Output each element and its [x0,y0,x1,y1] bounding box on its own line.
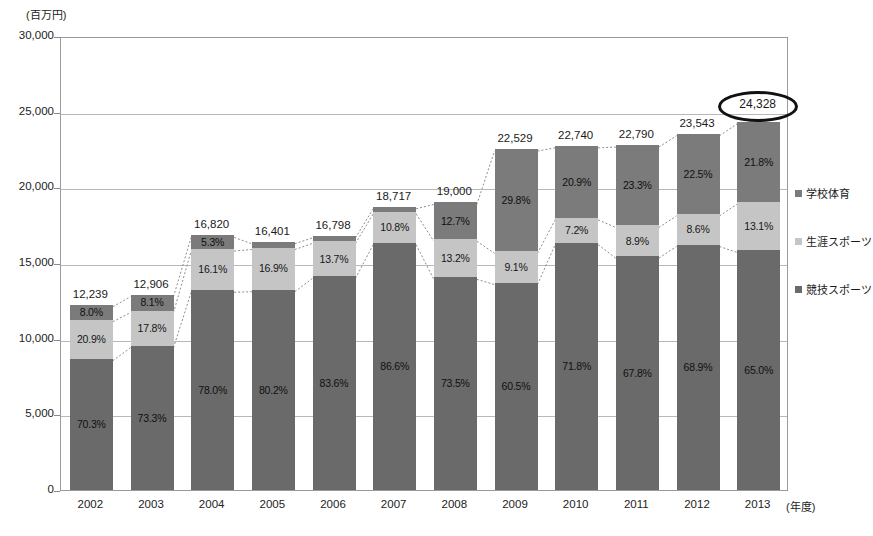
bar-2004[interactable]: 78.0%16.1%5.3% [191,235,234,490]
bar-segment-mid-2005[interactable]: 16.9% [252,248,295,290]
legend-swatch-icon [795,286,802,293]
bar-2006[interactable]: 83.6%13.7%2.2% [313,236,356,490]
connector-line [477,279,495,284]
legend-label: 生涯スポーツ [806,233,872,249]
connector-line [659,216,677,228]
bar-segment-bot-2013[interactable]: 65.0% [737,250,780,490]
bar-2002[interactable]: 70.3%20.9%8.0% [70,305,113,490]
chart-legend: 学校体育生涯スポーツ競技スポーツ [795,186,872,330]
x-axis-tick-label-2004: 2004 [181,498,243,510]
x-axis-tick-label-2013: 2013 [727,498,789,510]
bar-segment-bot-2005[interactable]: 80.2% [252,290,295,490]
connector-line [598,245,616,258]
y-axis-tick-label: 15,000 [4,256,54,268]
total-label-2006: 16,798 [293,219,373,231]
segment-percent-label: 13.2% [441,253,470,264]
bar-segment-mid-2006[interactable]: 13.7% [313,241,356,276]
segment-percent-label: 16.9% [259,263,288,274]
bar-segment-top-2012[interactable]: 22.5% [677,134,720,214]
bar-segment-mid-2012[interactable]: 8.6% [677,214,720,245]
bar-2005[interactable]: 80.2%16.9%2.3% [252,242,295,490]
bar-segment-top-2003[interactable]: 8.1% [131,295,174,311]
bar-segment-top-2007[interactable]: 1.8% [373,207,416,212]
connector-line [538,220,556,253]
segment-percent-label: 10.8% [380,222,409,233]
bar-2011[interactable]: 67.8%8.9%23.3% [616,145,659,490]
connector-line [174,292,192,347]
bar-2007[interactable]: 86.6%10.8%1.8% [373,207,416,490]
bar-segment-top-2004[interactable]: 5.3% [191,235,234,249]
connector-line [113,313,131,322]
bar-segment-bot-2007[interactable]: 86.6% [373,243,416,490]
segment-percent-label: 13.7% [320,254,349,265]
bar-2003[interactable]: 73.3%17.8%8.1% [131,295,174,490]
segment-percent-label: 8.6% [686,224,709,235]
x-axis-tick-label-2002: 2002 [59,498,121,510]
bar-segment-mid-2004[interactable]: 16.1% [191,249,234,290]
bar-2013[interactable]: 65.0%13.1%21.8% [737,122,780,490]
bar-segment-bot-2006[interactable]: 83.6% [313,276,356,490]
bar-segment-bot-2011[interactable]: 67.8% [616,256,659,490]
bar-2008[interactable]: 73.5%13.2%12.7% [434,202,477,490]
bar-segment-mid-2011[interactable]: 8.9% [616,225,659,256]
legend-item-1[interactable]: 生涯スポーツ [795,234,872,248]
total-label-2008: 19,000 [414,185,494,197]
bar-segment-top-2009[interactable]: 29.8% [495,149,538,251]
bar-segment-mid-2013[interactable]: 13.1% [737,202,780,250]
bar-segment-bot-2012[interactable]: 68.9% [677,245,720,490]
bar-segment-bot-2004[interactable]: 78.0% [191,290,234,490]
x-axis-tick-label-2009: 2009 [484,498,546,510]
bar-2010[interactable]: 71.8%7.2%20.9% [555,146,598,490]
bar-segment-mid-2010[interactable]: 7.2% [555,218,598,243]
bar-segment-mid-2008[interactable]: 13.2% [434,239,477,277]
y-axis-tick-mark [54,491,60,492]
x-axis-unit-label: (年度) [786,498,815,514]
segment-percent-label: 83.6% [320,378,349,389]
bar-segment-bot-2003[interactable]: 73.3% [131,346,174,490]
bar-segment-mid-2009[interactable]: 9.1% [495,251,538,282]
total-label-2003: 12,906 [111,278,191,290]
bar-segment-top-2002[interactable]: 8.0% [70,305,113,320]
bar-segment-bot-2009[interactable]: 60.5% [495,283,538,491]
bar-2009[interactable]: 60.5%9.1%29.8% [495,149,538,490]
y-axis-unit-label: (百万円) [26,6,66,22]
bar-segment-top-2010[interactable]: 20.9% [555,146,598,218]
bar-segment-mid-2003[interactable]: 17.8% [131,311,174,346]
bar-segment-mid-2007[interactable]: 10.8% [373,212,416,243]
segment-percent-label: 8.0% [80,307,103,318]
segment-percent-label: 13.1% [744,221,773,232]
x-axis-tick-label-2008: 2008 [423,498,485,510]
bar-segment-top-2006[interactable]: 2.2% [313,236,356,242]
chart-container: (百万円) 30,00025,00020,00015,00010,0005,00… [0,0,873,536]
legend-label: 競技スポーツ [806,281,872,297]
bar-segment-mid-2002[interactable]: 20.9% [70,320,113,359]
bar-segment-top-2008[interactable]: 12.7% [434,202,477,239]
total-label-2013: 24,328 [718,97,798,111]
total-label-2011: 22,790 [596,128,676,140]
bar-2012[interactable]: 68.9%8.6%22.5% [677,134,720,490]
connector-line [477,241,495,253]
connector-line [538,148,556,151]
bar-segment-bot-2010[interactable]: 71.8% [555,243,598,490]
bar-segment-bot-2002[interactable]: 70.3% [70,359,113,490]
bar-segment-top-2013[interactable]: 21.8% [737,122,780,202]
bar-segment-top-2005[interactable]: 2.3% [252,242,295,248]
connector-line [598,147,616,148]
segment-percent-label: 8.9% [626,236,649,247]
gridline [61,114,787,115]
connector-line [416,204,434,208]
legend-item-0[interactable]: 学校体育 [795,186,872,200]
bar-segment-bot-2008[interactable]: 73.5% [434,277,477,490]
x-axis-tick-label-2012: 2012 [666,498,728,510]
segment-percent-label: 22.5% [684,169,713,180]
bar-segment-top-2011[interactable]: 23.3% [616,145,659,225]
connector-line [720,204,738,216]
legend-label: 学校体育 [806,185,850,201]
segment-percent-label: 20.9% [562,177,591,188]
x-axis-tick-label-2007: 2007 [363,498,425,510]
connector-line [356,245,374,279]
connector-line [416,245,434,280]
segment-percent-label: 86.6% [380,361,409,372]
legend-item-2[interactable]: 競技スポーツ [795,282,872,296]
segment-percent-label: 73.3% [138,413,167,424]
